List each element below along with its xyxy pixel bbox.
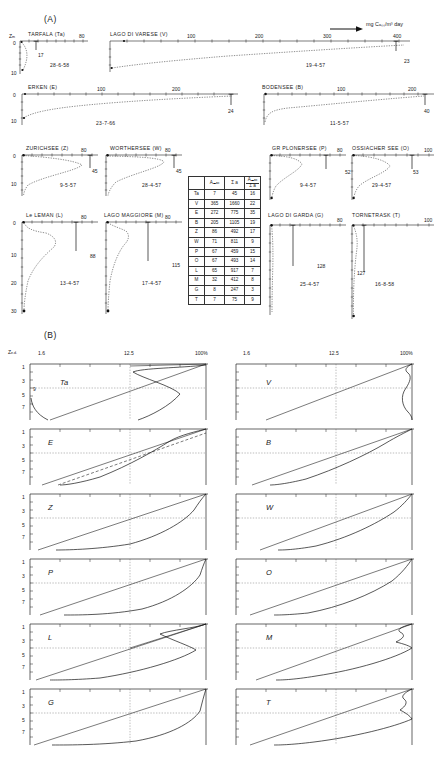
cell-amax: 205 <box>205 218 225 228</box>
cell-amax: 86 <box>205 228 225 238</box>
cell-suma: 45 <box>225 190 245 200</box>
pb-ytick-r6-1: 1 <box>22 689 25 695</box>
table-header-row: Aₘₐₓ Σ a Aₘₐₓ Σ a <box>189 177 261 190</box>
pb-ytick-r2-3: 3 <box>22 443 25 449</box>
plot-worthersee <box>104 152 186 198</box>
cell-lake: M <box>189 276 205 286</box>
pb-ytick-r4-3: 3 <box>22 573 25 579</box>
cell-ratio: 8 <box>245 276 261 286</box>
cell-amax: 67 <box>205 247 225 257</box>
cell-ratio: 14 <box>245 257 261 267</box>
table-row: W718119 <box>189 237 261 247</box>
cell-ratio: 17 <box>245 228 261 238</box>
cell-amax: 32 <box>205 276 225 286</box>
panel-title-zurichsee: ZURICHSEE (Z) <box>26 145 69 151</box>
ratio-denominator: Σ a <box>246 184 259 189</box>
axis-caption-text: mg Cₐₛₛ/m³ day <box>366 21 403 27</box>
cell-suma: 459 <box>225 247 245 257</box>
depth-tick-l-0: 0 <box>13 220 16 226</box>
cell-ratio: 19 <box>245 218 261 228</box>
table-row: V365166022 <box>189 199 261 209</box>
section-b-label: (B) <box>44 330 57 340</box>
cell-suma: 811 <box>225 237 245 247</box>
plot-bodensee <box>262 91 438 127</box>
cell-lake: E <box>189 209 205 219</box>
table-row: L659177 <box>189 266 261 276</box>
cell-amax: 365 <box>205 199 225 209</box>
pb-ytick-r5-7: 7 <box>22 664 25 670</box>
plot-leman <box>20 219 102 317</box>
pb-ytick-r4-7: 7 <box>22 599 25 605</box>
table-row: Z8649217 <box>189 228 261 238</box>
cell-amax: 7 <box>205 190 225 200</box>
pb-ytick-r2-7: 7 <box>22 469 25 475</box>
cell-ratio: 3 <box>245 285 261 295</box>
table-header-suma: Σ a <box>225 177 245 190</box>
cell-lake: V <box>189 199 205 209</box>
table-body: Ta74516 V365166022 E27277535 B205110519 … <box>189 190 261 305</box>
table-header-amax: Aₘₐₓ <box>205 177 225 190</box>
panel-title-leman: Le LEMAN (L) <box>26 212 63 218</box>
pb-ytick-r5-1: 1 <box>22 624 25 630</box>
pb-ytick-r4-5: 5 <box>22 587 25 593</box>
cell-amax: 272 <box>205 209 225 219</box>
depth-tick-l-30: 30 <box>11 308 17 314</box>
cell-amax: 8 <box>205 285 225 295</box>
table-header-lake <box>189 177 205 190</box>
cell-lake: W <box>189 237 205 247</box>
cell-lake: B <box>189 218 205 228</box>
depth-tick-e-10: 10 <box>11 118 17 124</box>
pb-ytick-r1-7: 7 <box>22 404 25 410</box>
table-row: B205110519 <box>189 218 261 228</box>
table-row: G82473 <box>189 285 261 295</box>
pb-ytick-r5-5: 5 <box>22 652 25 658</box>
panel-title-garda: LAGO DI GARDA (G) <box>268 212 324 218</box>
cell-lake: O <box>189 257 205 267</box>
panel-title-maggiore: LAGO MAGGIORE (M) <box>104 212 164 218</box>
pb-ytick-r5-3: 3 <box>22 638 25 644</box>
cell-suma: 247 <box>225 285 245 295</box>
pb-ytick-r3-5: 5 <box>22 522 25 528</box>
table-row: E27277535 <box>189 209 261 219</box>
cell-lake: Z <box>189 228 205 238</box>
plot-ossiacher <box>350 152 438 202</box>
panel-b-depth-axis-label: Ze.d. <box>8 349 17 355</box>
panel-title-bodensee: BODENSEE (B) <box>262 84 303 90</box>
table-row: Ta74516 <box>189 190 261 200</box>
pb-ytick-r6-7: 7 <box>22 729 25 735</box>
cell-suma: 493 <box>225 257 245 267</box>
pb-ytick-r1-3: 3 <box>22 378 25 384</box>
cell-ratio: 35 <box>245 209 261 219</box>
depth-tick-e-0: 0 <box>13 92 16 98</box>
figure-root: (A) mg Cₐₛₛ/m³ day TARFALA (Ta) Zm 0 10 … <box>0 0 443 774</box>
table-row: P6745915 <box>189 247 261 257</box>
depth-tick-ta-10: 10 <box>11 70 17 76</box>
panel-title-ossiacher: OSSIACHER SEE (O) <box>352 145 409 151</box>
pb-ytick-r1-1: 1 <box>22 364 25 370</box>
cell-suma: 1105 <box>225 218 245 228</box>
cell-lake: Ta <box>189 190 205 200</box>
cell-ratio: 9 <box>245 237 261 247</box>
table-row: T7759 <box>189 295 261 305</box>
cell-suma: 775 <box>225 209 245 219</box>
panel-title-erken: ERKEN (E) <box>28 84 57 90</box>
pb-ytick-r3-1: 1 <box>22 494 25 500</box>
plot-tarfala <box>18 38 94 76</box>
pb-ytick-r3-3: 3 <box>22 508 25 514</box>
cell-suma: 492 <box>225 228 245 238</box>
depth-tick-l-10: 10 <box>11 252 17 258</box>
panel-title-varese: LAGO DI VARESE (V) <box>110 31 168 37</box>
pb-ytick-r6-3: 3 <box>22 703 25 709</box>
panel-b-grid <box>30 356 430 756</box>
cell-ratio: 7 <box>245 266 261 276</box>
cell-lake: T <box>189 295 205 305</box>
depth-tick-l-20: 20 <box>11 280 17 286</box>
depth-tick-z-0: 0 <box>13 153 16 159</box>
plot-tornetrask <box>348 222 438 322</box>
cell-amax: 67 <box>205 257 225 267</box>
plot-erken <box>20 91 242 127</box>
cell-lake: G <box>189 285 205 295</box>
depth-tick-z-10: 10 <box>11 181 17 187</box>
plot-varese <box>108 38 414 74</box>
table-row: M324128 <box>189 276 261 286</box>
